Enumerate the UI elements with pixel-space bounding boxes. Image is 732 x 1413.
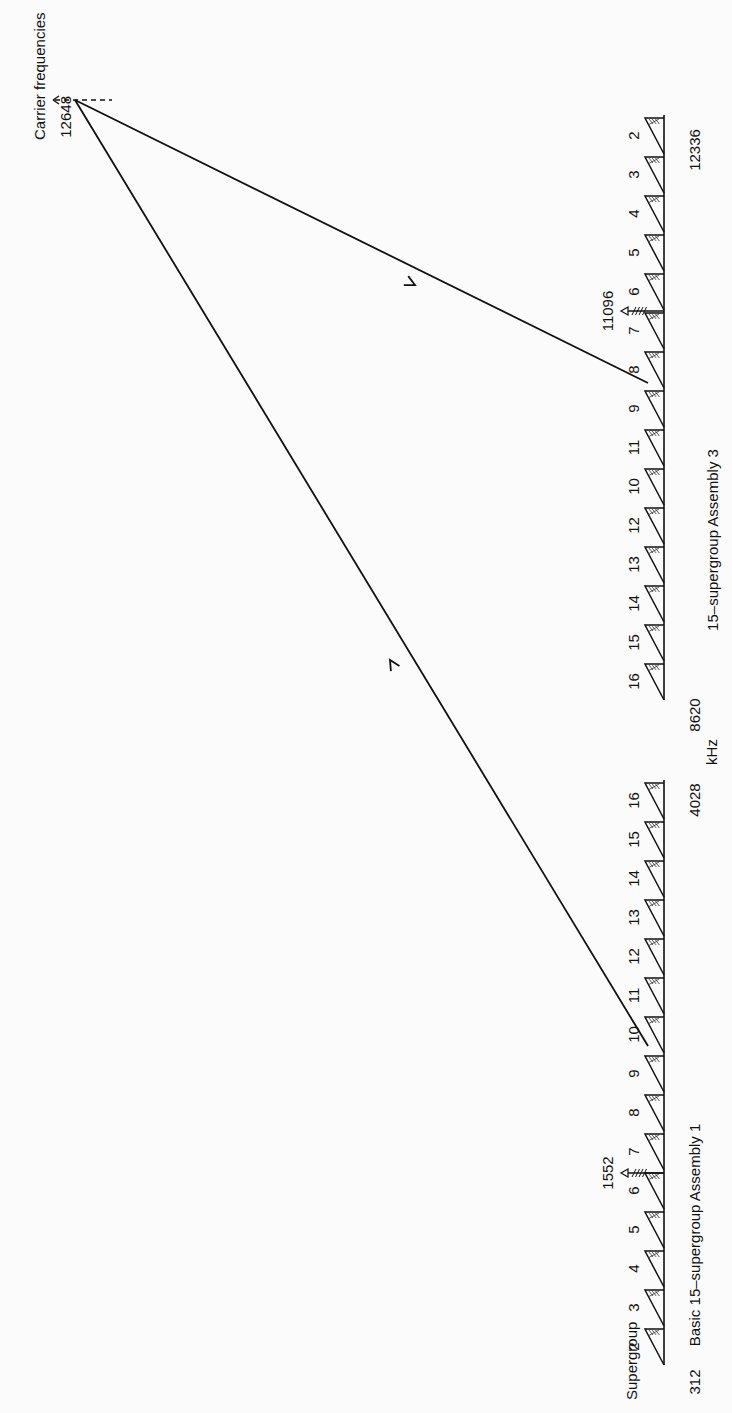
supergroup-triangle-icon bbox=[645, 274, 664, 310]
supergroup-triangle-icon bbox=[645, 1212, 664, 1248]
supergroup-3: 3 bbox=[625, 1290, 664, 1326]
supergroup-triangle-icon bbox=[645, 586, 664, 622]
supergroup-number: 3 bbox=[625, 170, 642, 178]
supergroup-7: 7 bbox=[625, 1134, 664, 1170]
supergroup-number: 16 bbox=[625, 673, 642, 690]
supergroup-number: 9 bbox=[625, 404, 642, 412]
hatch-icon bbox=[648, 353, 659, 359]
hatch-icon bbox=[648, 784, 659, 790]
assembly1-low-frequency: 312 bbox=[686, 1369, 703, 1394]
supergroup-4: 4 bbox=[625, 1251, 664, 1287]
supergroup-6: 6 bbox=[625, 1173, 664, 1209]
supergroup-triangle-icon bbox=[645, 508, 664, 544]
supergroup-9: 9 bbox=[625, 391, 664, 427]
supergroup-number: 6 bbox=[625, 1186, 642, 1194]
supergroup-6: 6 bbox=[625, 274, 664, 310]
supergroup-number: 4 bbox=[625, 1264, 642, 1272]
supergroup-triangle-icon bbox=[645, 118, 664, 154]
supergroup-triangle-icon bbox=[645, 430, 664, 466]
supergroup-number: 5 bbox=[625, 1225, 642, 1233]
supergroup-number: 7 bbox=[625, 326, 642, 334]
assembly3-pilot-label: 11096 bbox=[599, 291, 616, 332]
hatch-icon bbox=[648, 862, 659, 868]
supergroup-12: 12 bbox=[625, 939, 664, 975]
assembly1-high-frequency: 4028 bbox=[686, 783, 703, 816]
supergroup-number: 10 bbox=[625, 478, 642, 495]
hatch-icon bbox=[648, 823, 659, 829]
hatch-icon bbox=[648, 1018, 659, 1024]
supergroup-triangle-icon bbox=[645, 978, 664, 1014]
supergroup-7: 7 bbox=[625, 313, 664, 349]
supergroup-8: 8 bbox=[625, 352, 664, 388]
supergroup-number: 2 bbox=[625, 131, 642, 139]
hatch-icon bbox=[648, 1174, 659, 1180]
hatch-icon bbox=[648, 158, 659, 164]
supergroup-triangle-icon bbox=[645, 547, 664, 583]
supergroup-8: 8 bbox=[625, 1095, 664, 1131]
supergroup-triangle-icon bbox=[645, 157, 664, 193]
supergroup-number: 6 bbox=[625, 287, 642, 295]
supergroup-5: 5 bbox=[625, 235, 664, 271]
supergroup-12: 12 bbox=[625, 508, 664, 544]
supergroup-number: 15 bbox=[625, 831, 642, 848]
supergroup-number: 14 bbox=[625, 870, 642, 887]
hatch-icon bbox=[648, 236, 659, 242]
supergroup-number: 9 bbox=[625, 1069, 642, 1077]
hatch-icon bbox=[648, 979, 659, 985]
supergroup-triangle-icon bbox=[645, 235, 664, 271]
supergroup-triangle-icon bbox=[645, 391, 664, 427]
supergroup-triangle-icon bbox=[645, 783, 664, 819]
supergroup-16: 16 bbox=[625, 664, 664, 700]
supergroup-number: 13 bbox=[625, 556, 642, 573]
hatch-icon bbox=[648, 470, 659, 476]
supergroup-triangle-icon bbox=[645, 900, 664, 936]
supergroup-11: 11 bbox=[625, 978, 664, 1014]
assembly3-low-frequency: 8620 bbox=[686, 698, 703, 731]
supergroup-triangle-icon bbox=[645, 1017, 664, 1053]
assembly-3: 1615141312101198765432 bbox=[621, 115, 664, 700]
hatch-icon bbox=[648, 275, 659, 281]
supergroup-triangle-icon bbox=[645, 1056, 664, 1092]
hatch-icon bbox=[648, 314, 659, 320]
hatch-icon bbox=[648, 1096, 659, 1102]
supergroup-number: 15 bbox=[625, 634, 642, 651]
hatch-icon bbox=[648, 901, 659, 907]
supergroup-number: 4 bbox=[625, 209, 642, 217]
supergroup-triangle-icon bbox=[645, 664, 664, 700]
frequency-translation-diagram: Carrier frequencies 12648 16151413121011… bbox=[0, 0, 732, 1413]
supergroup-triangle-icon bbox=[645, 196, 664, 232]
supergroup-5: 5 bbox=[625, 1212, 664, 1248]
supergroup-number: 16 bbox=[625, 792, 642, 809]
supergroup-triangle-icon bbox=[645, 861, 664, 897]
supergroup-11: 11 bbox=[625, 430, 664, 466]
pilot-marker-icon bbox=[621, 307, 664, 315]
supergroup-14: 14 bbox=[625, 861, 664, 897]
hatch-icon bbox=[648, 1330, 659, 1336]
supergroup-15: 15 bbox=[625, 822, 664, 858]
pilot-marker-icon bbox=[621, 1169, 664, 1177]
supergroup-number: 5 bbox=[625, 248, 642, 256]
supergroup-16: 16 bbox=[625, 783, 664, 819]
supergroup-number: 8 bbox=[625, 365, 642, 373]
supergroup-number: 12 bbox=[625, 948, 642, 965]
supergroup-number: 7 bbox=[625, 1147, 642, 1155]
hatch-icon bbox=[648, 626, 659, 632]
carrier-frequency-label: 12648 bbox=[57, 96, 74, 138]
supergroup-number: 12 bbox=[625, 517, 642, 534]
supergroup-triangle-icon bbox=[645, 1251, 664, 1287]
supergroup-number: 11 bbox=[625, 988, 642, 1004]
supergroup-13: 13 bbox=[625, 547, 664, 583]
translation-links bbox=[75, 100, 648, 1046]
supergroup-3: 3 bbox=[625, 157, 664, 193]
hatch-icon bbox=[648, 431, 659, 437]
supergroup-triangle-icon bbox=[645, 939, 664, 975]
supergroup-14: 14 bbox=[625, 586, 664, 622]
supergroup-13: 13 bbox=[625, 900, 664, 936]
supergroup-number: 3 bbox=[625, 1303, 642, 1311]
supergroup-number: 11 bbox=[625, 440, 642, 456]
supergroup-triangle-icon bbox=[645, 313, 664, 349]
unit-label: kHz bbox=[703, 739, 720, 765]
hatch-icon bbox=[648, 587, 659, 593]
supergroup-triangle-icon bbox=[645, 1134, 664, 1170]
arrowhead-icon bbox=[390, 660, 399, 671]
